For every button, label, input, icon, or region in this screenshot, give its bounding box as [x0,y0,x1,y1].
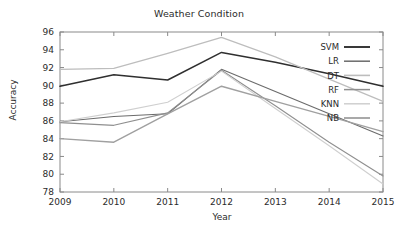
y-axis-tick-label: 90 [43,81,55,91]
y-axis-tick-label: 88 [43,98,55,108]
x-axis-tick-label: 2012 [210,197,233,207]
legend-label-dt: DT [327,71,340,81]
y-axis-tick-label: 92 [43,63,54,73]
legend-label-lr: LR [328,56,339,66]
y-axis-tick-label: 96 [43,27,55,37]
x-axis-tick-label: 2010 [102,197,125,207]
y-axis-tick-label: 78 [43,187,55,197]
x-axis-tick-label: 2013 [264,197,287,207]
y-axis-tick-label: 94 [43,45,55,55]
x-axis-tick-label: 2015 [372,197,395,207]
legend-label-svm: SVM [320,42,339,52]
legend-label-nb: NB [327,113,339,123]
line-chart-plot: 7880828486889092949620092010201120122013… [0,0,398,235]
x-axis-tick-label: 2009 [49,197,72,207]
y-axis-tick-label: 80 [43,169,55,179]
y-axis-tick-label: 86 [43,116,55,126]
x-axis-tick-label: 2014 [318,197,341,207]
legend-label-knn: KNN [321,99,339,109]
y-axis-tick-label: 84 [43,134,55,144]
y-axis-tick-label: 82 [43,152,54,162]
legend-label-rf: RF [328,85,339,95]
x-axis-tick-label: 2011 [156,197,179,207]
chart-figure: Weather Condition Accuracy Year 78808284… [0,0,398,235]
